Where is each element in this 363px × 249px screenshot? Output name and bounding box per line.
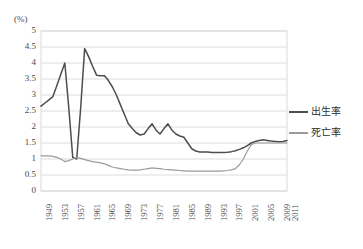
series-line [41,49,287,159]
y-axis-tick-label: 0.5 [2,170,36,179]
x-axis-tick-label: 1989 [204,204,213,221]
x-axis-tick-label: 1965 [108,204,117,221]
legend-label: 死亡率 [311,127,341,138]
line-chart: (%) 00.511.522.533.544.55 19491953195719… [0,0,363,249]
y-axis-tick-label: 3.5 [2,74,36,83]
legend-item[interactable]: 死亡率 [289,127,341,138]
x-axis-tick-label: 1953 [61,204,70,221]
x-axis-tick-label: 1981 [172,204,181,221]
y-axis-tick-label: 2 [2,122,36,131]
series-lines [41,49,287,172]
legend-item[interactable]: 出生率 [289,106,341,117]
x-axis-tick-label: 2005 [267,204,276,221]
y-axis-tick-label: 2.5 [2,106,36,115]
y-axis-tick-label: 5 [2,26,36,35]
y-axis-tick-label: 0 [2,186,36,195]
legend-color-swatch [289,111,308,113]
legend-color-swatch [289,132,308,134]
x-axis-tick-label: 2001 [251,204,260,221]
x-axis-tick-label: 1973 [140,204,149,221]
y-axis-tick-label: 3 [2,90,36,99]
x-axis-tick-label: 1985 [188,204,197,221]
x-axis-tick-label: 1949 [45,204,54,221]
y-axis-tick-label: 4 [2,58,36,67]
x-axis-tick-label: 1977 [156,204,165,221]
gridlines [41,31,287,191]
y-axis-tick-label: 1.5 [2,138,36,147]
x-axis-tick-label: 2011 [291,204,300,221]
legend-label: 出生率 [311,106,341,117]
y-axis-tick-label: 4.5 [2,42,36,51]
y-axis-tick-label: 1 [2,154,36,163]
x-axis-tick-label: 1997 [235,204,244,221]
x-axis-tick-label: 1993 [220,204,229,221]
x-axis-tick-label: 1969 [124,204,133,221]
x-axis-tick-label: 1957 [77,204,86,221]
plot-area [0,0,363,249]
x-axis-tick-label: 1961 [93,204,102,221]
